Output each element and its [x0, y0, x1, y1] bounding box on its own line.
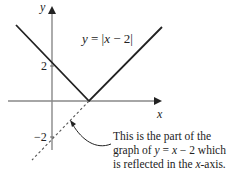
x-axis-label: x [157, 108, 162, 120]
y-tick-label-2: 2 [41, 60, 47, 72]
y-axis-label: y [40, 1, 45, 13]
annotation-line-2: graph of y = x − 2 which [113, 143, 226, 157]
annotation-line-3: is reflected in the x-axis. [113, 157, 226, 171]
annotation-line-1: This is the part of the [113, 129, 226, 143]
function-label: y = |x − 2| [82, 33, 133, 45]
y-tick-label-neg2: −2 [34, 131, 47, 143]
annotation-arrow [73, 125, 111, 146]
annotation-text: This is the part of the graph of y = x −… [113, 129, 226, 171]
arrowhead-icon [70, 120, 76, 127]
